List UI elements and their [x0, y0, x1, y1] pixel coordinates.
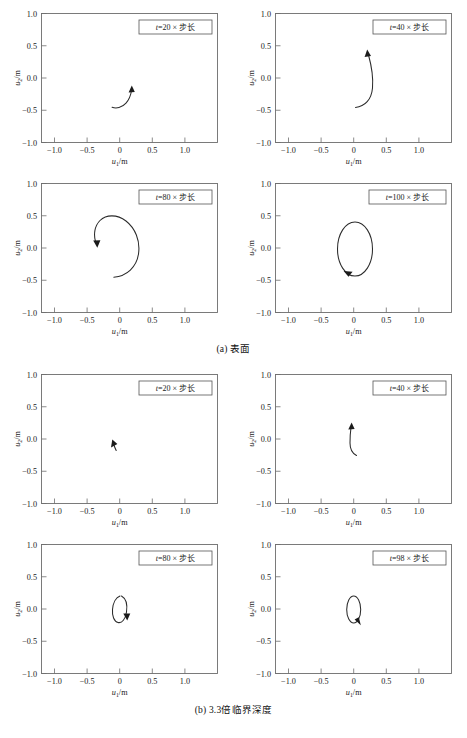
trajectory-curve [112, 596, 130, 623]
y-tick-label: 1.0 [27, 541, 37, 550]
time-badge-a-t80: t=80 × 步长 [139, 190, 212, 204]
x-tick-label: 0 [351, 146, 355, 155]
y-tick-labels: 1.0 0.5 0.0 −0.5 −1.0 [256, 371, 271, 509]
x-tick-label: −1.0 [281, 316, 296, 325]
y-tick-label: −1.0 [22, 139, 37, 148]
x-tick-labels: −1.0 −0.5 0 0.5 1.0 [281, 316, 424, 325]
y-tick-label: −1.0 [22, 309, 37, 318]
y-tick-label: 1.0 [27, 180, 37, 189]
y-tick-label: −0.5 [256, 637, 271, 646]
time-badge-b-t98: t=98 × 步长 [373, 551, 446, 565]
y-tick-label: 1.0 [260, 180, 270, 189]
time-badge-label: t=80 × 步长 [156, 192, 195, 202]
y-tick-label: 0.5 [27, 42, 37, 51]
y-tick-label: −1.0 [22, 670, 37, 679]
y-axis-label: u2/m [247, 70, 257, 86]
x-tick-label: −0.5 [80, 507, 95, 516]
group-a-caption: (a) 表面 [0, 341, 467, 355]
x-tick-labels: −1.0 −0.5 0 0.5 1.0 [47, 507, 190, 516]
trajectory-curve [111, 440, 117, 451]
y-tick-labels: 1.0 0.5 0.0 −0.5 −1.0 [22, 10, 37, 148]
x-tick-label: 0 [118, 677, 122, 686]
x-tick-label: 0.5 [381, 146, 391, 155]
x-axis-label: u1/m [345, 327, 361, 337]
x-axis-label: u1/m [112, 688, 128, 698]
y-tick-label: 0.0 [260, 244, 270, 253]
time-badge-b-t80: t=80 × 步长 [139, 551, 212, 565]
plot-panel-a-t80: 1.0 0.5 0.0 −0.5 −1.0 −1.0 −0.5 0 0.5 1.… [0, 170, 233, 340]
panel-grid-a: 1.0 0.5 0.0 −0.5 −1.0 −1.0 −0.5 0 0.5 1.… [0, 0, 467, 340]
y-tick-label: −0.5 [22, 276, 37, 285]
y-axis-label: u2/m [13, 70, 23, 86]
x-axis-label: u1/m [345, 688, 361, 698]
direction-arrowhead [129, 86, 135, 93]
y-tick-labels: 1.0 0.5 0.0 −0.5 −1.0 [22, 371, 37, 509]
figure-group-a: 1.0 0.5 0.0 −0.5 −1.0 −1.0 −0.5 0 0.5 1.… [0, 0, 467, 355]
y-tick-label: 0.5 [27, 212, 37, 221]
x-tick-label: 1.0 [413, 316, 423, 325]
x-tick-label: 0.5 [381, 316, 391, 325]
x-tick-label: 0.5 [147, 146, 157, 155]
y-axis-label: u2/m [247, 240, 257, 256]
y-tick-label: −0.5 [256, 106, 271, 115]
plot-panel-b-t80: 1.0 0.5 0.0 −0.5 −1.0 −1.0 −0.5 0 0.5 1.… [0, 531, 233, 701]
y-tick-label: −0.5 [256, 467, 271, 476]
time-badge-label: t=20 × 步长 [156, 22, 195, 32]
trajectory-curve [348, 423, 356, 456]
trajectory-curve [337, 222, 372, 277]
plot-panel-a-t100: 1.0 0.5 0.0 −0.5 −1.0 −1.0 −0.5 0 0.5 1.… [234, 170, 467, 340]
y-tick-label: 1.0 [260, 541, 270, 550]
y-tick-label: −0.5 [256, 276, 271, 285]
x-tick-label: 0.5 [147, 316, 157, 325]
x-tick-label: 0 [351, 507, 355, 516]
y-tick-label: −1.0 [22, 500, 37, 509]
x-axis-label: u1/m [345, 157, 361, 167]
y-tick-label: 0.5 [260, 573, 270, 582]
x-tick-label: −1.0 [47, 316, 62, 325]
y-tick-label: −0.5 [22, 467, 37, 476]
time-badge-a-t20: t=20 × 步长 [139, 20, 212, 34]
x-tick-label: 0 [118, 146, 122, 155]
x-tick-labels: −1.0 −0.5 0 0.5 1.0 [47, 677, 190, 686]
y-tick-label: −1.0 [256, 309, 271, 318]
time-badge-b-t40: t=40 × 步长 [373, 381, 446, 395]
x-tick-label: 0 [118, 316, 122, 325]
y-tick-label: −0.5 [22, 106, 37, 115]
time-badge-label: t=98 × 步长 [389, 553, 428, 563]
y-tick-label: 0.0 [260, 605, 270, 614]
y-tick-label: 0.5 [260, 42, 270, 51]
time-badge-a-t40: t=40 × 步长 [373, 20, 446, 34]
x-tick-label: 1.0 [413, 146, 423, 155]
x-axis-label: u1/m [112, 518, 128, 528]
trajectory-curve [355, 50, 372, 108]
y-tick-label: −1.0 [256, 139, 271, 148]
y-tick-label: 0.5 [260, 403, 270, 412]
x-axis-label: u1/m [345, 518, 361, 528]
y-axis-label: u2/m [13, 601, 23, 617]
plot-panel-b-t40: 1.0 0.5 0.0 −0.5 −1.0 −1.0 −0.5 0 0.5 1.… [234, 361, 467, 531]
time-badge-label: t=40 × 步长 [389, 383, 428, 393]
y-tick-labels: 1.0 0.5 0.0 −0.5 −1.0 [22, 180, 37, 318]
y-tick-label: 1.0 [260, 371, 270, 380]
x-tick-label: 1.0 [413, 507, 423, 516]
y-axis-label: u2/m [13, 240, 23, 256]
y-axis-label: u2/m [247, 601, 257, 617]
x-tick-labels: −1.0 −0.5 0 0.5 1.0 [281, 507, 424, 516]
time-badge-b-t20: t=20 × 步长 [139, 381, 212, 395]
x-tick-label: 0.5 [381, 677, 391, 686]
x-tick-label: −0.5 [80, 316, 95, 325]
x-axis-label: u1/m [112, 327, 128, 337]
y-tick-labels: 1.0 0.5 0.0 −0.5 −1.0 [256, 10, 271, 148]
y-tick-label: 1.0 [27, 10, 37, 19]
group-b-caption: (b) 3.3倍临界深度 [0, 702, 467, 716]
direction-arrowhead [354, 617, 360, 625]
direction-arrowhead [348, 423, 354, 430]
y-tick-label: 0.5 [27, 403, 37, 412]
x-tick-label: −0.5 [80, 677, 95, 686]
x-tick-label: −1.0 [281, 677, 296, 686]
x-tick-labels: −1.0 −0.5 0 0.5 1.0 [47, 146, 190, 155]
y-tick-label: 0.0 [260, 435, 270, 444]
x-axis-label: u1/m [112, 157, 128, 167]
x-tick-label: 0.5 [147, 677, 157, 686]
x-tick-label: −1.0 [47, 677, 62, 686]
